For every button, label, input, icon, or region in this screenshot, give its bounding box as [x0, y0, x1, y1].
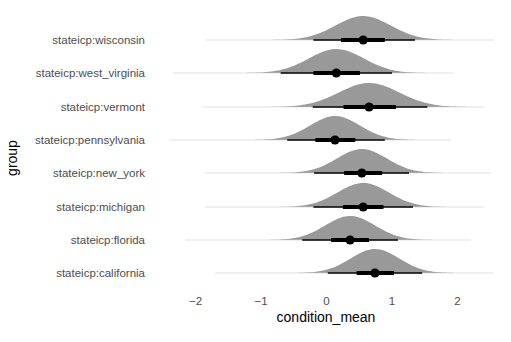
halfeye-vermont: [202, 83, 484, 112]
point-estimate: [330, 135, 339, 144]
point-estimate: [370, 268, 379, 277]
y-tick-label: stateicp:west_virginia: [36, 67, 146, 79]
y-tick-label: stateicp:vermont: [61, 101, 146, 113]
y-tick-label: stateicp:wisconsin: [52, 34, 145, 46]
halfeye-new-york: [205, 149, 490, 178]
density-slab: [215, 249, 493, 273]
y-tick-label: stateicp:california: [56, 267, 145, 279]
density-slab: [205, 183, 483, 207]
halfeye-florida: [186, 216, 471, 245]
density-slab: [169, 116, 451, 140]
point-estimate: [357, 168, 366, 177]
density-slab: [205, 149, 490, 173]
y-tick-label: stateicp:florida: [71, 234, 146, 246]
x-axis-tick-labels: −2−1012: [189, 295, 461, 307]
halfeye-wisconsin: [205, 16, 493, 45]
halfeye-pennsylvania: [169, 116, 451, 145]
density-slab: [205, 16, 493, 40]
y-tick-label: stateicp:michigan: [56, 201, 145, 213]
halfeye-california: [215, 249, 493, 278]
x-tick-label: −2: [189, 295, 202, 307]
plot-panel: [169, 16, 493, 278]
y-axis-tick-labels: stateicp:wisconsinstateicp:west_virginia…: [35, 34, 146, 279]
x-tick-label: 0: [323, 295, 329, 307]
point-estimate: [359, 202, 368, 211]
point-estimate: [364, 102, 373, 111]
density-slab: [173, 49, 455, 73]
point-estimate: [345, 235, 354, 244]
x-tick-label: −1: [254, 295, 267, 307]
x-tick-label: 1: [389, 295, 395, 307]
halfeye-west-virginia: [173, 49, 455, 78]
y-axis-title: group: [4, 140, 20, 176]
y-tick-label: stateicp:pennsylvania: [35, 134, 146, 146]
y-tick-label: stateicp:new_york: [53, 167, 145, 179]
halfeye-chart: stateicp:wisconsinstateicp:west_virginia…: [0, 0, 511, 342]
point-estimate: [332, 68, 341, 77]
x-tick-label: 2: [454, 295, 460, 307]
point-estimate: [359, 35, 368, 44]
halfeye-michigan: [205, 183, 483, 212]
density-slab: [186, 216, 471, 240]
x-axis-title: condition_mean: [277, 309, 376, 325]
density-slab: [202, 83, 484, 107]
